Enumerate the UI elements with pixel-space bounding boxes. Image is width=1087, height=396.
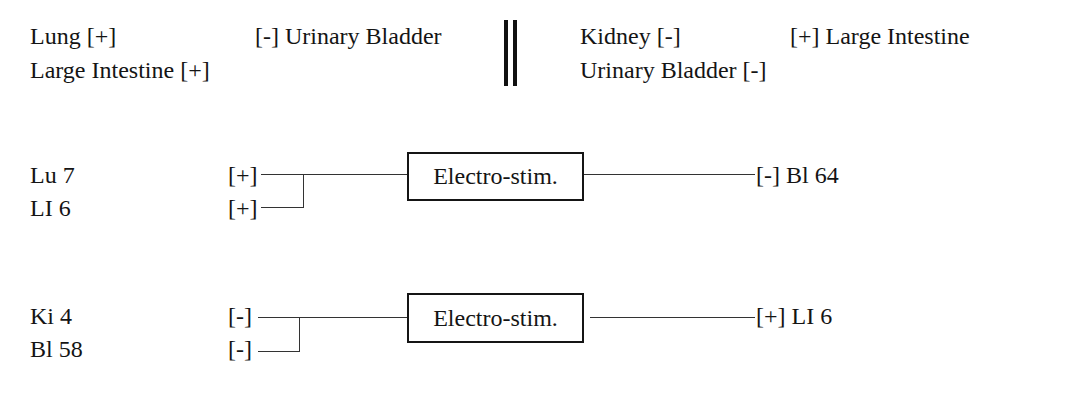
header-right-urinary-bladder: Urinary Bladder [-] (580, 56, 767, 84)
circuit-2-wire-top (258, 317, 407, 318)
circuit-2-electro-stim-box: Electro-stim. (407, 293, 584, 343)
circuit-1-input-1-polarity: [+] (228, 161, 258, 189)
circuit-2-input-1-point: Ki 4 (30, 302, 72, 330)
header-left-large-intestine: Large Intestine [+] (30, 56, 210, 84)
circuit-2-input-2-point: Bl 58 (30, 335, 83, 363)
circuit-1-input-2-point: LI 6 (30, 194, 71, 222)
circuit-1-electro-stim-box: Electro-stim. (407, 152, 584, 201)
header-right-kidney: Kidney [-] (580, 22, 681, 50)
circuit-2-wire-junction (299, 317, 300, 352)
circuit-1-wire-output (584, 174, 755, 175)
circuit-2-wire-bottom (258, 351, 299, 352)
circuit-2-output: [+] LI 6 (756, 302, 832, 330)
header-left-urinary-bladder: [-] Urinary Bladder (255, 22, 442, 50)
circuit-2-input-2-polarity: [-] (228, 335, 252, 363)
circuit-2-device-label: Electro-stim. (433, 305, 558, 332)
circuit-1-wire-bottom (261, 207, 303, 208)
circuit-1-input-2-polarity: [+] (228, 194, 258, 222)
header-left-lung: Lung [+] (30, 22, 116, 50)
header-right-large-intestine: [+] Large Intestine (790, 22, 970, 50)
divider-bar-left (504, 20, 508, 86)
circuit-1-input-1-point: Lu 7 (30, 161, 75, 189)
circuit-1-wire-top (261, 174, 407, 175)
circuit-2-wire-output (590, 317, 755, 318)
circuit-1-device-label: Electro-stim. (433, 163, 558, 190)
divider-bar-right (513, 20, 517, 86)
circuit-2-input-1-polarity: [-] (228, 302, 252, 330)
circuit-1-output: [-] Bl 64 (756, 161, 839, 189)
circuit-1-wire-junction (303, 174, 304, 208)
